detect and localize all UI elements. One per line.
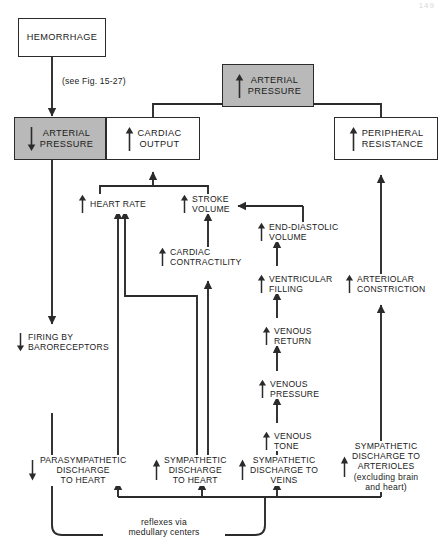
node-firing-by-baroreceptors: FIRING BY BARORECEPTORS [16, 332, 109, 352]
node-venous-tone: VENOUS TONE [262, 431, 312, 451]
node-venous-return-label: VENOUS RETURN [274, 326, 312, 346]
figure-canvas: 149 [0, 0, 443, 554]
node-arterial-pressure-decreased: ARTERIAL PRESSURE [14, 117, 106, 160]
node-arteriolar-constriction: ARTERIOLAR CONSTRICTION [345, 274, 425, 294]
node-sympathetic-discharge-to-arterioles: SYMPATHETIC DISCHARGE TO ARTERIOLES (exc… [340, 441, 420, 492]
node-cardiac-output-label: CARDIAC OUTPUT [138, 128, 182, 149]
arrow-down-icon [27, 126, 36, 152]
node-cardiac-contractility-label: CARDIAC CONTRACTILITY [170, 247, 242, 267]
node-parasympathetic-discharge-to-heart-label: PARASYMPATHETIC DISCHARGE TO HEART [40, 455, 126, 486]
node-hemorrhage-label: HEMORRHAGE [27, 32, 97, 43]
arrow-up-icon [257, 222, 266, 242]
node-ventricular-filling: VENTRICULAR FILLING [257, 274, 332, 294]
node-venous-pressure: VENOUS PRESSURE [258, 379, 319, 399]
node-sympathetic-discharge-to-heart: SYMPATHETIC DISCHARGE TO HEART [152, 455, 227, 486]
node-heart-rate-label: HEART RATE [90, 199, 146, 209]
node-stroke-volume-label: STROKE VOLUME [192, 194, 230, 214]
node-arteriolar-constriction-label: ARTERIOLAR CONSTRICTION [357, 274, 425, 294]
node-end-diastolic-volume: END-DIASTOLIC VOLUME [257, 222, 338, 242]
arrow-up-icon [258, 379, 267, 399]
arrow-up-icon [125, 126, 134, 152]
arrow-up-icon [349, 126, 358, 152]
figure-cross-reference: (see Fig. 15-27) [62, 76, 126, 86]
arrow-down-icon [28, 458, 37, 482]
arrow-up-icon [152, 458, 161, 482]
arrow-up-icon [345, 274, 354, 294]
node-end-diastolic-volume-label: END-DIASTOLIC VOLUME [269, 222, 338, 242]
node-venous-tone-label: VENOUS TONE [274, 431, 312, 451]
node-peripheral-resistance: PERIPHERAL RESISTANCE [334, 117, 438, 160]
arrow-up-icon [340, 455, 349, 479]
node-arterial-pressure-increased-label: ARTERIAL PRESSURE [248, 75, 301, 96]
node-sympathetic-discharge-to-arterioles-label: SYMPATHETIC DISCHARGE TO ARTERIOLES (exc… [352, 441, 420, 492]
node-arterial-pressure-increased: ARTERIAL PRESSURE [222, 64, 314, 107]
node-sympathetic-discharge-to-veins-label: SYMPATHETIC DISCHARGE TO VEINS [250, 455, 318, 486]
node-peripheral-resistance-label: PERIPHERAL RESISTANCE [362, 128, 424, 149]
reflex-pathway-label: reflexes via medullary centers [103, 517, 225, 538]
arrow-up-icon [262, 326, 271, 346]
arrow-up-icon [78, 194, 87, 214]
arrow-down-icon [16, 332, 25, 352]
node-arterial-pressure-decreased-label: ARTERIAL PRESSURE [40, 128, 93, 149]
node-heart-rate: HEART RATE [78, 194, 146, 214]
node-cardiac-output: CARDIAC OUTPUT [106, 117, 200, 160]
arrow-up-icon [235, 73, 244, 99]
node-ventricular-filling-label: VENTRICULAR FILLING [269, 274, 332, 294]
arrow-up-icon [158, 247, 167, 267]
node-sympathetic-discharge-to-heart-label: SYMPATHETIC DISCHARGE TO HEART [164, 455, 227, 486]
node-venous-pressure-label: VENOUS PRESSURE [270, 379, 319, 399]
node-cardiac-contractility: CARDIAC CONTRACTILITY [158, 247, 242, 267]
page-folio: 149 [419, 1, 435, 10]
arrow-up-icon [257, 274, 266, 294]
node-sympathetic-discharge-to-veins: SYMPATHETIC DISCHARGE TO VEINS [238, 455, 318, 486]
node-venous-return: VENOUS RETURN [262, 326, 312, 346]
arrow-up-icon [238, 458, 247, 482]
node-hemorrhage: HEMORRHAGE [18, 18, 106, 57]
node-stroke-volume: STROKE VOLUME [180, 194, 230, 214]
node-firing-by-baroreceptors-label: FIRING BY BARORECEPTORS [28, 332, 109, 352]
arrow-up-icon [180, 194, 189, 214]
node-parasympathetic-discharge-to-heart: PARASYMPATHETIC DISCHARGE TO HEART [28, 455, 126, 486]
arrow-up-icon [262, 431, 271, 451]
